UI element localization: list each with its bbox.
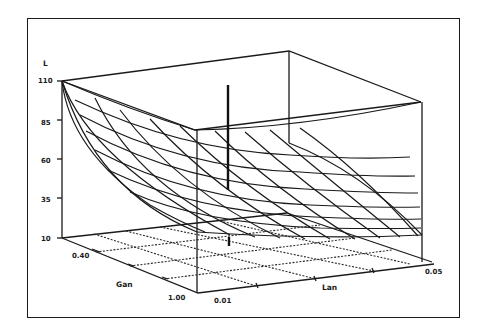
vertical-marker (228, 85, 229, 246)
z-tick-10: 10 (41, 235, 51, 243)
z-tick-60: 60 (41, 157, 51, 165)
z-tick-85: 85 (41, 119, 51, 127)
z-tick-35: 35 (41, 196, 51, 204)
gan-tick-040: 0.40 (72, 252, 89, 260)
z-axis-title: L (43, 59, 48, 68)
surface-mesh (62, 81, 422, 239)
surface-plot: L 110 85 60 35 10 (0, 0, 486, 335)
lan-axis-title: Lan (322, 283, 337, 292)
gan-tick-100: 1.00 (168, 294, 185, 302)
gan-axis-title: Gan (116, 280, 133, 289)
z-tick-110: 110 (38, 77, 53, 85)
z-axis (57, 81, 62, 238)
lan-tick-001: 0.01 (214, 297, 231, 305)
floor-grid (92, 221, 410, 288)
lan-tick-005: 0.05 (425, 268, 442, 276)
